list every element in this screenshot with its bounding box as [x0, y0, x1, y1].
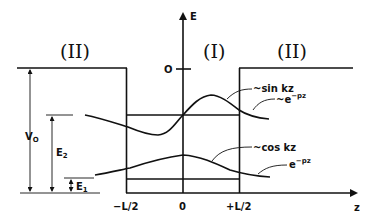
- tick-label-zero: 0: [179, 201, 186, 212]
- square-well-diagram: (II) (I) (II) z E O VO E2 E1: [0, 0, 374, 220]
- region-label-left: (II): [60, 40, 90, 62]
- cos-leader: [212, 147, 252, 161]
- region-label-center: (I): [203, 40, 225, 62]
- z-axis-label: z: [354, 202, 360, 213]
- region-label-right: (II): [277, 40, 307, 62]
- tick-label-plus-l-half: +L/2: [226, 201, 251, 212]
- tick-label-minus-l-half: −L/2: [113, 201, 138, 212]
- exp-lower-leader: [258, 165, 287, 174]
- exp-lower-annotation: e−pz: [289, 157, 311, 170]
- e-axis-label: E: [190, 11, 197, 22]
- e1-label: E1: [76, 181, 88, 194]
- potential-well: [17, 68, 353, 193]
- vo-label: VO: [25, 131, 39, 144]
- exp-upper-annotation: ~e−pz: [276, 92, 306, 105]
- zero-label: O: [164, 64, 173, 75]
- sin-annotation: ~sin kz: [253, 83, 294, 94]
- e2-label: E2: [56, 147, 68, 160]
- exp-upper-leader: [253, 99, 275, 110]
- cos-annotation: ~cos kz: [253, 142, 296, 153]
